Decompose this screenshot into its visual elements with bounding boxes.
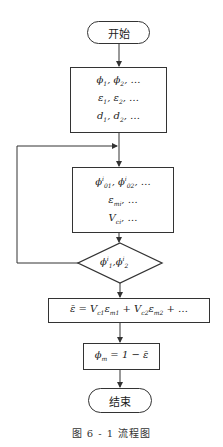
porosity-box: ϕm = 1 − ε̄ [83, 343, 160, 370]
input-line-strains: ε1, ε2, … [98, 91, 139, 109]
input-line-diameters: d1, d2, … [97, 109, 140, 127]
mean-strain-box: ε̄ = Vc1εm1 + Vc2εm2 + … [48, 298, 210, 323]
end-label: 结束 [109, 393, 131, 409]
iteration-line-porosities: ϕi01, ϕi02, … [95, 172, 151, 193]
input-parameters-box: ϕ1, ϕ2, … ε1, ε2, … d1, d2, … [70, 67, 167, 133]
porosity-formula: ϕm = 1 − ε̄ [95, 348, 149, 366]
input-line-porosities: ϕ1, ϕ2, … [96, 73, 140, 91]
iteration-box: ϕi01, ϕi02, … εmi, … Vci, … [72, 167, 174, 233]
decision-label: ϕi1,ϕi2 [100, 255, 128, 269]
figure-caption: 图 6 - 1 流程图 [0, 425, 223, 440]
end-terminal: 结束 [88, 388, 152, 413]
start-terminal: 开始 [87, 21, 150, 44]
iteration-line-strain: εmi, … [108, 193, 137, 211]
start-label: 开始 [108, 25, 130, 41]
mean-strain-formula: ε̄ = Vc1εm1 + Vc2εm2 + … [70, 302, 188, 320]
iteration-line-volume: Vci, … [109, 211, 138, 229]
